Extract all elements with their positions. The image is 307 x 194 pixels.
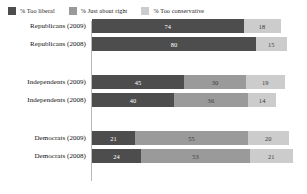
legend-label-too-liberal: % Too liberal [20,7,55,15]
bar-segment-value: 40 [130,97,137,104]
stacked-bar-chart: % Too liberal % Just about right % Too c… [0,0,307,194]
bar-track: 8015 [92,37,297,51]
bar-segment[interactable]: 18 [244,19,281,33]
row-label: Republicans (2008) [0,37,86,51]
bar-group-republicans: Republicans (2009) 7418 Republicans (200… [0,19,307,55]
bar-row[interactable]: Republicans (2009) 7418 [0,19,307,33]
bar-segment[interactable]: 21 [250,149,293,163]
bar-segment[interactable]: 45 [92,75,184,89]
row-label: Democrats (2008) [0,149,86,163]
bar-segment-value: 53 [192,153,199,160]
chart-legend: % Too liberal % Just about right % Too c… [0,0,307,16]
bar-segment[interactable]: 53 [141,149,250,163]
bar-segment[interactable]: 55 [135,131,248,145]
bar-segment[interactable]: 24 [92,149,141,163]
bar-track: 403614 [92,93,297,107]
bar-group-democrats: Democrats (2009) 215520 Democrats (2008)… [0,131,307,167]
bar-segment-value: 30 [212,79,219,86]
row-label: Independents (2009) [0,75,86,89]
bar-group-independents: Independents (2009) 453019 Independents … [0,75,307,111]
bar-segment-value: 74 [165,23,172,30]
bar-row[interactable]: Republicans (2008) 8015 [0,37,307,51]
legend-item-too-liberal[interactable]: % Too liberal [8,7,55,15]
bar-segment[interactable]: 19 [246,75,285,89]
bar-segment-value: 36 [208,97,215,104]
bar-segment-value: 20 [265,135,272,142]
bar-segment-value: 80 [171,41,178,48]
legend-swatch-too-liberal [8,7,16,15]
bar-segment[interactable]: 30 [184,75,246,89]
bar-track: 215520 [92,131,297,145]
legend-label-just-about-right: % Just about right [81,7,128,15]
bar-row[interactable]: Democrats (2008) 245321 [0,149,307,163]
bar-row[interactable]: Democrats (2009) 215520 [0,131,307,145]
bar-segment[interactable]: 20 [248,131,289,145]
bar-segment[interactable]: 21 [92,131,135,145]
plot-area: Republicans (2009) 7418 Republicans (200… [0,19,307,194]
bar-segment-value: 18 [259,23,266,30]
bar-segment-value: 21 [268,153,275,160]
bar-segment-value: 19 [262,79,269,86]
bar-segment-value: 45 [135,79,142,86]
row-label: Independents (2008) [0,93,86,107]
bar-segment[interactable]: 14 [248,93,277,107]
row-label: Republicans (2009) [0,19,86,33]
legend-item-just-about-right[interactable]: % Just about right [69,7,128,15]
bar-segment[interactable]: 80 [92,37,256,51]
bar-segment[interactable]: 15 [256,37,287,51]
legend-item-too-conservative[interactable]: % Too conservative [141,7,204,15]
bar-row[interactable]: Independents (2009) 453019 [0,75,307,89]
legend-swatch-just-about-right [69,7,77,15]
bar-segment-value: 24 [113,153,120,160]
bar-track: 7418 [92,19,297,33]
bar-segment[interactable]: 40 [92,93,174,107]
bar-row[interactable]: Independents (2008) 403614 [0,93,307,107]
legend-label-too-conservative: % Too conservative [153,7,204,15]
row-label: Democrats (2009) [0,131,86,145]
bar-segment-value: 55 [188,135,195,142]
bar-segment[interactable]: 36 [174,93,248,107]
bar-track: 245321 [92,149,297,163]
legend-swatch-too-conservative [141,7,149,15]
bar-segment-value: 21 [110,135,117,142]
bar-segment-value: 15 [268,41,275,48]
bar-segment[interactable]: 74 [92,19,244,33]
bar-segment-value: 14 [259,97,266,104]
bar-track: 453019 [92,75,297,89]
